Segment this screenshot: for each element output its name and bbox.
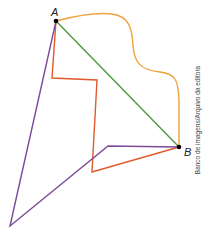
red-polygonal-path [52, 21, 179, 172]
point-a-label: A [51, 6, 58, 18]
point-b-label: B [184, 146, 191, 158]
green-straight-path [56, 21, 179, 147]
point-a-dot [54, 19, 59, 24]
point-b-dot [177, 145, 182, 150]
path-diagram [0, 0, 215, 239]
image-credit: Banco de imagens/Arquivo da editora [194, 66, 201, 174]
orange-curved-path [56, 13, 179, 147]
